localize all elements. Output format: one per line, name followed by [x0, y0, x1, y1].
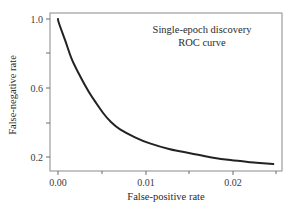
- y-tick-label: 1.0: [31, 14, 44, 25]
- roc-chart: 1.0 0.6 0.2 0.00 0.01 0.02 False-positiv…: [0, 0, 295, 210]
- x-tick-label: 0.00: [49, 177, 67, 188]
- chart-title: Single-epoch discovery: [153, 24, 253, 35]
- y-axis-label: False-negative rate: [7, 55, 18, 135]
- x-axis-ticks: [58, 171, 276, 175]
- chart-subtitle: ROC curve: [178, 37, 226, 48]
- x-tick-label: 0.01: [137, 177, 155, 188]
- y-tick-label: 0.2: [31, 152, 44, 163]
- x-axis-label: False-positive rate: [127, 191, 205, 202]
- x-tick-label: 0.02: [224, 177, 242, 188]
- roc-curve-line: [58, 19, 273, 164]
- chart-canvas: 1.0 0.6 0.2 0.00 0.01 0.02 False-positiv…: [0, 0, 295, 210]
- y-axis-ticks: [46, 19, 50, 157]
- y-tick-label: 0.6: [31, 83, 44, 94]
